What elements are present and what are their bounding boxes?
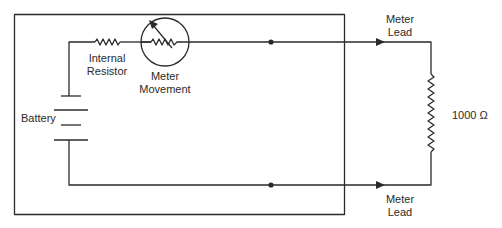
bottom-meter-lead-label-line1: Meter [380,193,420,206]
battery-label-text: Battery [21,112,56,125]
meter-movement-label-line1: Meter [134,70,196,83]
top-lead-wire [378,42,431,74]
bottom-meter-lead-label-line2: Lead [380,206,420,219]
top-meter-lead-label-line1: Meter [380,13,420,26]
load-resistor-label: 1000 Ω [452,109,488,122]
bottom-meter-lead-label: Meter Lead [380,193,420,219]
top-lead-arrow-icon [376,38,385,46]
bottom-lead-wire [378,152,431,185]
top-meter-lead-label: Meter Lead [380,13,420,39]
internal-resistor-label-line1: Internal [82,52,132,65]
meter-movement-label-line2: Movement [134,83,196,96]
battery-label: Battery [21,112,56,125]
load-resistor-label-text: 1000 Ω [452,109,488,122]
internal-resistor-label: Internal Resistor [82,52,132,78]
bottom-wire [69,140,378,185]
load-resistor-icon [428,74,434,152]
bottom-lead-arrow-icon [376,181,385,189]
internal-resistor-label-line2: Resistor [82,65,132,78]
bottom-junction-dot [268,182,273,187]
battery-icon [54,96,88,140]
meter-movement-label: Meter Movement [134,70,196,96]
top-meter-lead-label-line2: Lead [380,26,420,39]
top-junction-dot [268,39,273,44]
circuit-diagram [0,0,502,228]
internal-resistor-icon [95,39,120,45]
meter-needle-icon [149,20,172,48]
